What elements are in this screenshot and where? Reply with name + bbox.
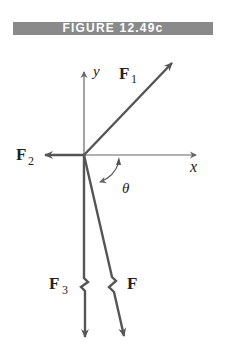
F2-label: F [16,145,26,164]
F3-label: F [49,274,59,293]
force-diagram: y x θ F 1 F 2 F 3 F [0,0,228,360]
theta-label: θ [122,180,130,196]
vector-F3 [81,155,88,337]
F1-subscript: 1 [131,72,137,86]
y-axis-label: y [91,63,100,79]
x-axis-label: x [189,158,197,175]
vector-F [84,155,124,336]
F-label: F [127,274,137,293]
F3-subscript: 3 [62,283,68,297]
F2-subscript: 2 [28,154,34,168]
F1-label: F [119,64,129,83]
